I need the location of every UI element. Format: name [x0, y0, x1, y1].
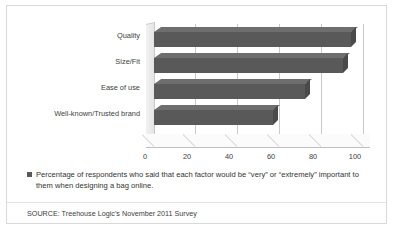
gridline-100: [363, 24, 364, 134]
bar-well-known-face: [154, 110, 273, 125]
chart-legend: Percentage of respondents who said that …: [27, 169, 377, 191]
legend-swatch-icon: [27, 172, 32, 177]
bar-quality-face: [154, 32, 351, 47]
legend-line-1: Percentage of respondents who said that …: [36, 170, 317, 179]
category-axis: Quality Size/Fit Ease of use Well-known/…: [7, 6, 146, 152]
bar-ease-of-use-face: [154, 84, 305, 99]
plot-area: [146, 24, 370, 152]
chart-card: Quality Size/Fit Ease of use Well-known/…: [6, 5, 387, 224]
legend-entry: Percentage of respondents who said that …: [27, 169, 377, 191]
category-label-size-fit: Size/Fit: [5, 58, 140, 65]
xtick-label-20: 20: [175, 153, 199, 160]
category-label-well-known: Well-known/Trusted brand: [5, 110, 140, 117]
chart-3d-floor: [146, 134, 370, 147]
value-axis: 0 20 40 60 80 100: [146, 153, 376, 165]
category-label-ease-of-use: Ease of use: [5, 84, 140, 91]
source-divider: [7, 202, 386, 203]
category-label-quality: Quality: [5, 32, 140, 39]
xtick-label-100: 100: [343, 153, 367, 160]
source-note: SOURCE: Treehouse Logic’s November 2011 …: [27, 209, 197, 218]
bar-chart: Quality Size/Fit Ease of use Well-known/…: [7, 6, 388, 166]
axis-baseline: [146, 147, 370, 148]
xtick-label-60: 60: [259, 153, 283, 160]
legend-entry-label: Percentage of respondents who said that …: [36, 169, 377, 191]
xtick-label-0: 0: [133, 153, 157, 160]
xtick-label-80: 80: [301, 153, 325, 160]
xtick-label-40: 40: [217, 153, 241, 160]
bar-size-fit-face: [154, 58, 343, 73]
